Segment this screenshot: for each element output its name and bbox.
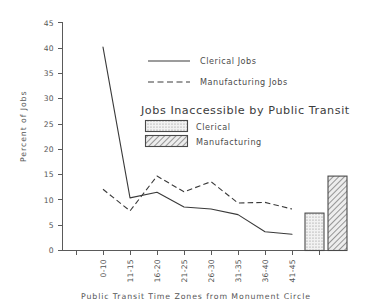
legend-swatch-clerical-bar (146, 121, 188, 132)
chart-canvas: 0 5 10 15 20 25 30 35 40 45 0-10 11-15 (0, 0, 366, 307)
y-tick-10: 10 (44, 196, 54, 205)
y-axis-title: Percent of Jobs (19, 91, 28, 162)
legend-label-clerical: Clerical (196, 122, 231, 132)
legend-label-manufacturing: Manufacturing (196, 137, 262, 147)
x-tick-31-35: 31-35 (234, 259, 243, 283)
x-tick-41-45: 41-45 (288, 259, 297, 283)
bar-group (305, 176, 347, 250)
x-tick-16-20: 16-20 (153, 259, 162, 283)
x-tick-11-15: 11-15 (126, 259, 135, 283)
y-tick-40: 40 (44, 44, 54, 53)
y-tick-5: 5 (49, 221, 54, 230)
x-tick-36-40: 36-40 (261, 259, 270, 283)
x-axis-title: Public Transit Time Zones from Monument … (81, 292, 311, 301)
y-tick-15: 15 (44, 170, 54, 179)
line-legend: Clerical Jobs Manufacturing Jobs (148, 56, 288, 87)
x-tick-0-10: 0-10 (99, 259, 108, 277)
y-tick-35: 35 (44, 69, 54, 78)
legend-label-clerical-jobs: Clerical Jobs (200, 56, 257, 66)
bar-clerical (305, 213, 324, 250)
y-tick-45: 45 (44, 19, 54, 28)
y-tick-30: 30 (44, 94, 54, 103)
y-tick-25: 25 (44, 120, 54, 129)
series-line-manufacturing (103, 176, 292, 211)
legend-label-manufacturing-jobs: Manufacturing Jobs (200, 77, 288, 87)
x-tick-21-25: 21-25 (180, 259, 189, 283)
x-tick-26-30: 26-30 (207, 259, 216, 283)
bar-manufacturing (328, 176, 347, 250)
inaccessible-legend-title: Jobs Inaccessible by Public Transit (140, 104, 350, 117)
chart-figure: 0 5 10 15 20 25 30 35 40 45 0-10 11-15 (0, 0, 366, 307)
x-axis: 0-10 11-15 16-20 21-25 26-30 31-35 36-40… (63, 251, 347, 283)
y-tick-20: 20 (44, 145, 54, 154)
y-axis: 0 5 10 15 20 25 30 35 40 45 (44, 19, 63, 256)
legend-swatch-manufacturing-bar (146, 136, 188, 147)
inaccessible-legend: Jobs Inaccessible by Public Transit Cler… (140, 104, 350, 147)
y-tick-0: 0 (49, 246, 54, 255)
